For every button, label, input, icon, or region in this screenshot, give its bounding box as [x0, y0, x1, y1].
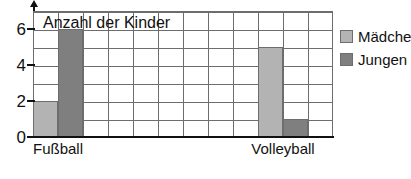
- boys-swatch: [340, 53, 353, 66]
- legend-item: Mädchen: [340, 26, 411, 46]
- bar-chart: 0246 Anzahl der Kinder FußballVolleyball…: [0, 0, 411, 179]
- plot-area: Anzahl der Kinder: [33, 11, 333, 137]
- x-axis-line: [33, 136, 334, 138]
- x-axis-category-label: Volleyball: [251, 141, 314, 158]
- bar-girls: [258, 47, 283, 137]
- y-axis-tick-label: 4: [0, 57, 26, 74]
- y-axis-labels: 0246: [0, 0, 26, 179]
- y-axis-tick-label: 0: [0, 129, 26, 146]
- chart-legend: MädchenJungen: [340, 26, 411, 72]
- girls-swatch: [340, 30, 353, 43]
- legend-item: Jungen: [340, 49, 411, 69]
- x-axis-labels: FußballVolleyballSchwimmenRad fahren: [33, 141, 334, 165]
- legend-item-label: Mädchen: [358, 29, 411, 44]
- y-axis-tick-mark: [27, 100, 35, 102]
- bar-boys: [58, 29, 83, 137]
- chart-title: Anzahl der Kinder: [41, 14, 172, 32]
- x-axis-category-label: Fußball: [33, 141, 83, 158]
- legend-item-label: Jungen: [358, 52, 407, 67]
- bar-girls: [33, 101, 58, 137]
- y-axis-tick-label: 2: [0, 93, 26, 110]
- y-axis-tick-mark: [27, 136, 35, 138]
- arrow-up-icon: [30, 0, 38, 7]
- y-axis-tick-mark: [27, 64, 35, 66]
- bar-boys: [283, 119, 308, 137]
- y-axis-tick-mark: [27, 28, 35, 30]
- y-axis-tick-label: 6: [0, 21, 26, 38]
